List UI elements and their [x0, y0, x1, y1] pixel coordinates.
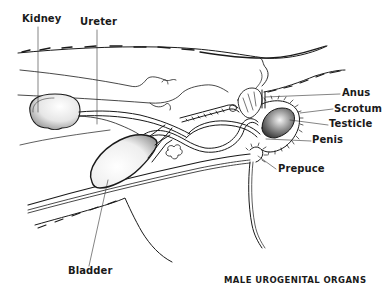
prostate-detail — [166, 145, 182, 159]
leader-testicle — [290, 120, 328, 125]
urogenital-illustration — [0, 0, 388, 300]
label-bladder: Bladder — [68, 266, 113, 276]
leader-prepuce — [258, 156, 276, 169]
testicle-shape — [262, 108, 295, 138]
intestine-outline — [20, 70, 176, 87]
kidney-shape — [30, 94, 80, 130]
leader-penis — [266, 139, 311, 141]
label-penis: Penis — [312, 135, 343, 145]
label-kidney: Kidney — [22, 14, 61, 24]
prepuce-outline — [250, 147, 263, 162]
hind-leg-outline — [249, 162, 262, 248]
label-anus: Anus — [342, 88, 370, 98]
leader-anus — [265, 94, 340, 97]
label-testicle: Testicle — [329, 119, 372, 129]
diagram-canvas: Kidney Ureter Anus Scrotum Testicle Peni… — [0, 0, 388, 300]
leader-bladder — [89, 180, 108, 266]
label-ureter: Ureter — [80, 17, 117, 27]
label-prepuce: Prepuce — [278, 164, 325, 174]
back-outline — [18, 46, 327, 58]
rectum-detail — [238, 88, 262, 118]
leader-scrotum — [300, 109, 333, 113]
diagram-title: MALE UROGENITAL ORGANS — [224, 275, 366, 285]
label-scrotum: Scrotum — [334, 104, 382, 114]
belly-outline — [20, 130, 110, 145]
